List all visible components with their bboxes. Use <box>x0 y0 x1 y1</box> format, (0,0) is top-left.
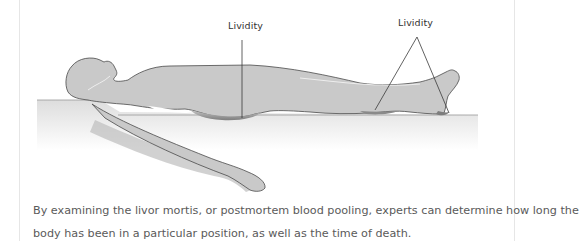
livor-mortis-illustration <box>0 0 530 195</box>
lividity-label-1: Lividity <box>228 20 263 31</box>
figure-caption: By examining the livor mortis, or postmo… <box>33 199 503 241</box>
caption-line-1: By examining the livor mortis, or postmo… <box>33 199 503 222</box>
body-silhouette <box>66 58 459 117</box>
caption-line-2: body has been in a particular position, … <box>33 222 503 241</box>
lividity-label-2: Lividity <box>398 17 433 28</box>
